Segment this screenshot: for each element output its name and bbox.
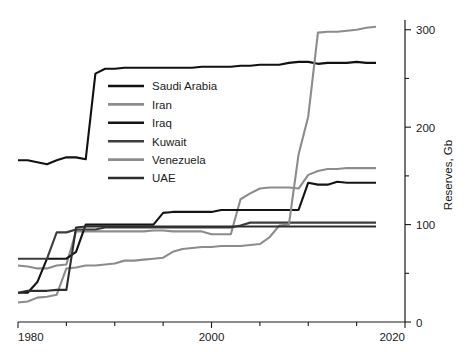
legend-label-venezuela: Venezuela (152, 154, 206, 166)
y-tick-label: 0 (416, 317, 422, 329)
y-tick-label: 300 (416, 24, 435, 36)
y-axis-ticks (405, 30, 411, 322)
chart-legend: Saudi ArabiaIranIraqKuwaitVenezuelaUAE (108, 80, 218, 184)
axis-group: 198020002020 0100200300 (18, 20, 435, 343)
reserves-line-chart: 198020002020 0100200300 Reserves, Gb Sau… (0, 0, 472, 352)
series-line-saudi-arabia (18, 62, 376, 164)
x-tick-label: 2000 (199, 331, 225, 343)
legend-label-uae: UAE (152, 172, 176, 184)
x-axis-ticks (18, 322, 405, 328)
x-tick-label: 2020 (379, 331, 405, 343)
y-tick-label: 100 (416, 219, 435, 231)
legend-label-iraq: Iraq (152, 117, 172, 129)
series-line-iraq (18, 182, 376, 293)
y-axis-tick-labels: 0100200300 (416, 24, 435, 328)
x-tick-label: 1980 (18, 331, 44, 343)
legend-label-iran: Iran (152, 99, 172, 111)
legend-label-saudi-arabia: Saudi Arabia (152, 80, 218, 92)
chart-canvas: 198020002020 0100200300 Reserves, Gb Sau… (0, 0, 472, 352)
series-line-uae (18, 227, 376, 293)
x-axis-tick-labels: 198020002020 (18, 331, 405, 343)
y-axis-title: Reserves, Gb (442, 140, 454, 210)
legend-label-kuwait: Kuwait (152, 136, 187, 148)
y-tick-label: 200 (416, 122, 435, 134)
